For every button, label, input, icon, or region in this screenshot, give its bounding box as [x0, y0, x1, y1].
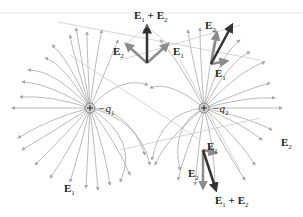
label-q1: −q1	[98, 103, 114, 117]
label-lower-right-e1: E1	[207, 141, 218, 155]
charge-q1	[85, 103, 95, 113]
label-field-e1: E1	[64, 183, 75, 197]
charge-q2	[199, 103, 209, 113]
label-lower-sum: E1 + E2	[215, 195, 248, 209]
label-field-e2: E2	[281, 137, 292, 151]
label-top-sum: E1 + E2	[134, 10, 167, 24]
field-diagram	[0, 0, 303, 217]
label-lower-right-e2: E2	[188, 168, 199, 182]
label-top-e2: E2	[113, 46, 124, 60]
label-top-e1: E1	[173, 46, 184, 60]
label-q2: −q2	[212, 103, 228, 117]
lower-right-vectors	[203, 150, 216, 190]
field-lines-q1	[12, 28, 150, 190]
label-upper-right-e2: E2	[205, 20, 216, 34]
label-upper-right-e1: E1	[215, 68, 226, 82]
top-vectors	[126, 26, 168, 63]
